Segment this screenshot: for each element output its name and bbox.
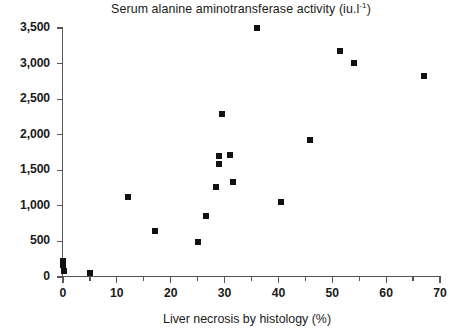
data-point	[216, 153, 222, 159]
x-tick-mark-major	[332, 277, 333, 283]
x-tick-mark-major	[439, 277, 440, 283]
y-tick-mark	[57, 170, 62, 171]
y-tick-label: 3,000	[2, 56, 50, 70]
x-tick-mark-major	[62, 277, 63, 283]
x-tick-mark-minor	[412, 277, 413, 281]
data-point	[227, 152, 233, 158]
y-tick-label: 500	[2, 233, 50, 247]
y-tick-label: 0	[2, 269, 50, 283]
y-tick-label: 3,500	[2, 20, 50, 34]
x-tick-label: 20	[151, 286, 191, 300]
data-point	[337, 48, 343, 54]
data-point	[125, 194, 131, 200]
x-tick-label: 0	[43, 286, 83, 300]
x-tick-label: 40	[258, 286, 298, 300]
data-point	[203, 213, 209, 219]
x-tick-mark-minor	[197, 277, 198, 281]
y-tick-label: 2,000	[2, 127, 50, 141]
chart-title-tail: )	[367, 2, 371, 16]
y-tick-mark	[57, 99, 62, 100]
x-tick-mark-major	[170, 277, 171, 283]
x-tick-label: 30	[205, 286, 245, 300]
x-tick-label: 70	[420, 286, 460, 300]
x-tick-mark-minor	[305, 277, 306, 281]
data-point	[87, 270, 93, 276]
data-point	[219, 111, 225, 117]
y-tick-mark	[57, 276, 62, 277]
y-tick-mark	[57, 241, 62, 242]
data-point	[216, 161, 222, 167]
data-point	[351, 60, 357, 66]
y-tick-mark	[57, 27, 62, 28]
scatter-plot-figure: Serum alanine aminotransferase activity …	[0, 0, 464, 336]
x-tick-mark-minor	[251, 277, 252, 281]
chart-title-text: Serum alanine aminotransferase activity …	[111, 2, 359, 16]
x-tick-label: 60	[366, 286, 406, 300]
y-tick-label: 2,500	[2, 91, 50, 105]
x-tick-mark-major	[278, 277, 279, 283]
data-point	[254, 25, 260, 31]
x-tick-mark-minor	[143, 277, 144, 281]
chart-title-superscript: -1	[359, 1, 366, 10]
y-axis-line	[62, 27, 63, 278]
y-tick-label: 1,500	[2, 162, 50, 176]
data-point	[152, 228, 158, 234]
x-tick-label: 50	[312, 286, 352, 300]
data-point	[61, 268, 67, 274]
y-tick-mark	[57, 205, 62, 206]
data-point	[307, 137, 313, 143]
chart-title: Serum alanine aminotransferase activity …	[0, 1, 464, 16]
y-tick-mark	[57, 63, 62, 64]
x-tick-mark-major	[116, 277, 117, 283]
data-point	[195, 239, 201, 245]
data-point	[230, 179, 236, 185]
x-tick-mark-major	[386, 277, 387, 283]
x-tick-label: 10	[97, 286, 137, 300]
y-tick-mark	[57, 134, 62, 135]
y-tick-label: 1,000	[2, 198, 50, 212]
x-tick-mark-minor	[89, 277, 90, 281]
data-point	[278, 199, 284, 205]
data-point	[421, 73, 427, 79]
x-tick-mark-major	[224, 277, 225, 283]
x-tick-mark-minor	[359, 277, 360, 281]
data-point	[213, 184, 219, 190]
x-axis-label: Liver necrosis by histology (%)	[0, 312, 464, 326]
